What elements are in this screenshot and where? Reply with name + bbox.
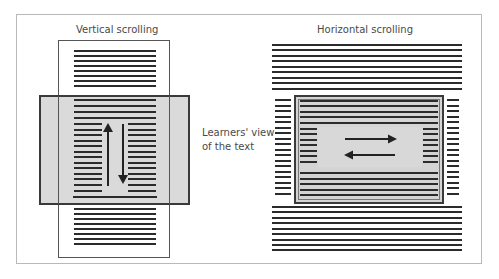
scrolling-diagram	[0, 0, 499, 279]
horizontal-text-lines-right-outside	[447, 100, 459, 194]
horizontal-text-lines-bottom	[272, 207, 462, 250]
horizontal-text-lines-left-outside	[275, 100, 291, 194]
horizontal-text-lines-top	[272, 45, 462, 89]
